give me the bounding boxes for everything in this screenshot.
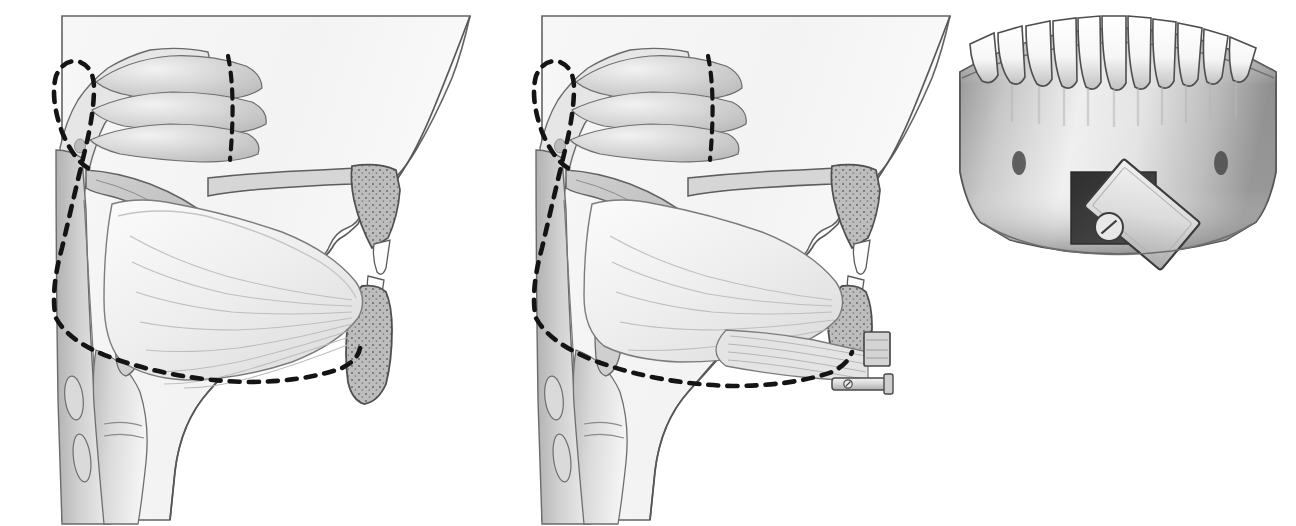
upper-incisor-tooth [853,240,870,274]
mental-foramen-left [1012,151,1026,175]
fixation-plate [832,378,890,390]
maxilla-bone [831,165,880,248]
frontal-mandible-svg [940,0,1296,526]
sagittal-post-svg [470,0,990,526]
tooth [1153,19,1176,88]
sagittal-pre-svg [0,0,500,526]
mandibular-teeth [970,16,1256,90]
fixation-screw [1095,213,1123,241]
panel-postoperative-sagittal [470,0,990,526]
plate-end-tab [884,374,893,394]
panel-frontal-mandible [940,0,1296,526]
mental-foramen-right [1214,151,1228,175]
panel-preoperative-sagittal [0,0,500,526]
medical-illustration-figure [0,0,1296,526]
tooth [1178,23,1202,86]
maxilla-bone [351,165,400,248]
advanced-genial-bone-segment [864,332,890,366]
upper-incisor-tooth [373,240,390,274]
